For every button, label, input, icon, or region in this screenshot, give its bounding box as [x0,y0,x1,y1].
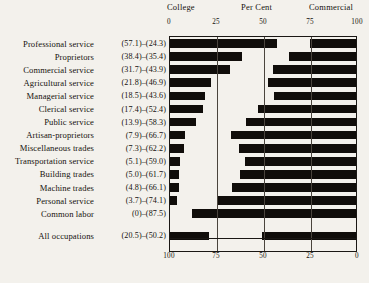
row-values: (20.5)–(50.2) [122,231,166,240]
row-values: (5.1)–(59.0) [126,157,166,166]
plot-area [169,37,357,252]
chart-row-label: Building trades(5.0)–(61.7) [0,168,169,181]
bar-college [170,105,203,114]
row-values: (57.1)–(24.3) [122,39,166,48]
bar-college [170,170,179,179]
chart-row-bars [170,50,356,63]
chart-header: College Per Cent Commercial [169,2,357,16]
row-label-column: Professional service(57.1)–(24.3)Proprie… [0,37,169,242]
chart-row-label: Transportation service(5.1)–(59.0) [0,155,169,168]
header-label-per-cent: Per Cent [241,2,272,12]
bar-college [170,52,242,61]
chart-row-label: Machine trades(4.8)–(66.1) [0,181,169,194]
row-values: (31.7)–(43.9) [122,65,166,74]
bar-commercial [245,157,356,166]
chart-row-label: Miscellaneous trades(7.3)–(62.2) [0,142,169,155]
bar-commercial [274,92,356,101]
top-axis-tick-100: 100 [351,18,362,26]
gridline-25 [217,37,218,252]
gridline-50 [264,37,265,252]
bar-commercial [289,52,356,61]
bottom-axis-tick-0: 0 [355,252,359,260]
chart-row-label: Public service(13.9)–(58.3) [0,116,169,129]
bar-college [170,131,185,140]
chart-row-label: Managerial service(18.5)–(43.6) [0,89,169,102]
bar-college [170,92,205,101]
chart-row-label: Agricultural service(21.8)–(46.9) [0,76,169,89]
bar-college [170,157,180,166]
row-values: (4.8)–(66.1) [126,183,166,192]
chart-row-bars [170,76,356,89]
occupation-label: Artisan-proprietors [26,130,94,140]
chart-row-bars [170,63,356,76]
occupation-label: Agricultural service [24,78,94,88]
header-label-college: College [167,2,195,12]
chart-row-bars [170,37,356,50]
row-values: (5.0)–(61.7) [126,170,166,179]
occupation-label: Miscellaneous trades [20,143,94,153]
bottom-axis: 1007550250 [169,252,357,264]
bar-commercial [232,183,356,192]
bottom-axis-tick-100: 100 [163,252,174,260]
row-values: (7.9)–(66.7) [126,131,166,140]
bar-commercial [310,39,356,48]
top-axis-tick-25: 25 [212,18,220,26]
occupation-label: Public service [44,117,94,127]
row-values: (0)–(87.5) [132,209,166,218]
chart-row-bars [170,129,356,142]
bar-college [170,118,196,127]
row-values: (3.7)–(74.1) [126,196,166,205]
bar-college [170,65,230,74]
bar-commercial [246,118,356,127]
chart-row-bars [170,155,356,168]
occupation-label: Personal service [36,196,94,206]
gridline-75 [311,37,312,252]
top-axis-tick-75: 75 [306,18,314,26]
occupation-label: Managerial service [27,91,94,101]
bar-commercial [231,131,356,140]
chart-row-bars [170,142,356,155]
chart-row-label: Common labor(0)–(87.5) [0,207,169,220]
occupation-label: Machine trades [40,183,94,193]
chart-row-label: Commercial service(31.7)–(43.9) [0,63,169,76]
chart-row-label: All occupations(20.5)–(50.2) [0,229,169,242]
bottom-axis-tick-25: 25 [306,252,314,260]
row-values: (18.5)–(43.6) [122,91,166,100]
bar-commercial [239,144,356,153]
bar-commercial [258,105,357,114]
chart-row-label: Clerical service(17.4)–(52.4) [0,102,169,115]
bar-college [170,144,184,153]
bar-commercial [273,65,356,74]
chart-figure: College Per Cent Commercial 0255075100 P… [0,0,369,283]
chart-row-label: Professional service(57.1)–(24.3) [0,37,169,50]
top-axis: 0255075100 [169,18,357,30]
bottom-axis-tick-75: 75 [212,252,220,260]
occupation-label: Common labor [41,209,94,219]
bar-commercial [240,170,356,179]
row-values: (21.8)–(46.9) [122,78,166,87]
chart-row-bars [170,194,356,207]
chart-row-bars [170,207,356,220]
row-values: (7.3)–(62.2) [126,144,166,153]
chart-row-label: Personal service(3.7)–(74.1) [0,194,169,207]
header-label-commercial: Commercial [309,2,353,12]
occupation-label: All occupations [38,231,94,241]
occupation-label: Professional service [23,39,94,49]
top-axis-tick-50: 50 [259,18,267,26]
row-values: (38.4)–(35.4) [122,52,166,61]
chart-row-bars [170,89,356,102]
bottom-axis-tick-50: 50 [259,252,267,260]
bar-commercial [217,196,356,205]
chart-row-bars [170,168,356,181]
chart-row-bars [170,229,356,242]
plot-rows [170,37,356,242]
bar-college [170,196,177,205]
plot-separator-rule [169,238,357,239]
occupation-label: Proprietors [55,52,94,62]
bar-college [170,39,277,48]
bar-college [170,78,211,87]
chart-row-bars [170,116,356,129]
occupation-label: Clerical service [39,104,94,114]
bar-college [170,183,179,192]
row-values: (17.4)–(52.4) [122,105,166,114]
